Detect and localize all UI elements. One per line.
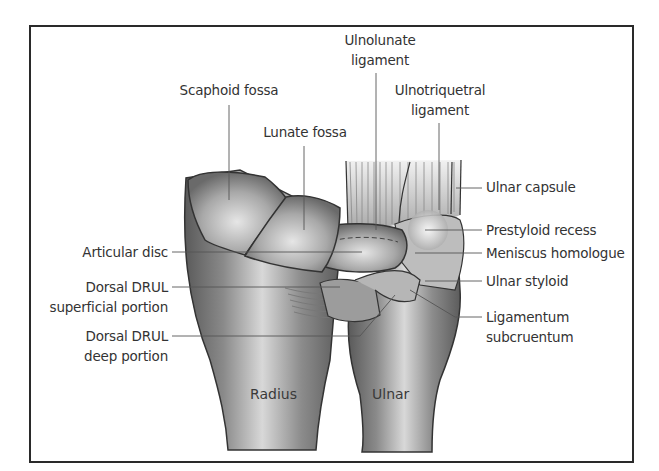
label-prestyloid-recess: Prestyloid recess (486, 220, 596, 240)
label-ulnolunate-ligament: Ulnolunate ligament (330, 30, 430, 70)
label-articular-disc: Articular disc (40, 242, 168, 262)
label-ulnar: Ulnar (372, 386, 409, 402)
label-dorsal-drul-superficial: Dorsal DRUL superficial portion (30, 277, 168, 317)
label-meniscus-homologue: Meniscus homologue (486, 243, 625, 263)
label-ulnar-capsule: Ulnar capsule (486, 177, 576, 197)
label-ligamentum-subcruentum: Ligamentum subcruentum (486, 307, 573, 347)
label-scaphoid-fossa: Scaphoid fossa (164, 80, 294, 100)
label-ulnotriquetral-ligament: Ulnotriquetral ligament (385, 80, 495, 120)
label-radius: Radius (250, 386, 297, 402)
label-lunate-fossa: Lunate fossa (250, 122, 360, 142)
label-dorsal-drul-deep: Dorsal DRUL deep portion (30, 326, 168, 366)
label-ulnar-styloid: Ulnar styloid (486, 271, 568, 291)
